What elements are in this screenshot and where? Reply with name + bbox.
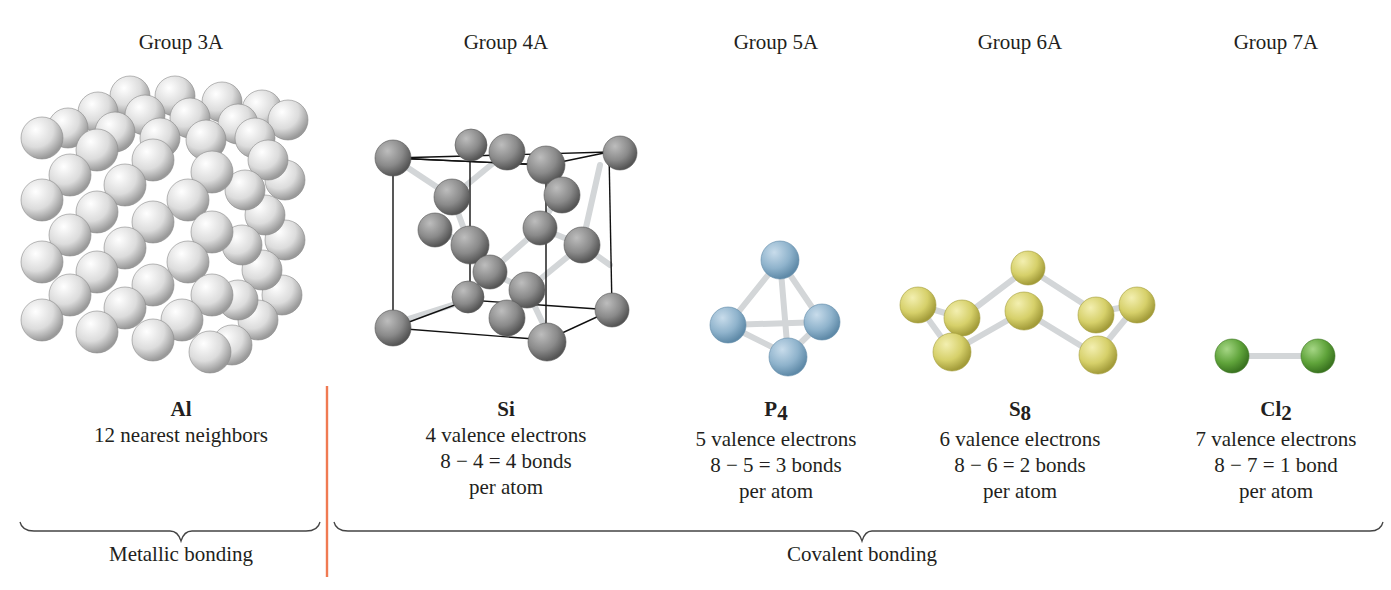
p4-label: P4 5 valence electrons 8 − 5 = 3 bonds p… xyxy=(656,396,896,504)
s8-label: S8 6 valence electrons 8 − 6 = 2 bonds p… xyxy=(900,396,1140,504)
description-line: per atom xyxy=(1156,478,1391,504)
cl2-label: Cl2 7 valence electrons 8 − 7 = 1 bond p… xyxy=(1156,396,1391,504)
metallic-brace xyxy=(20,522,320,541)
silicon-lattice xyxy=(375,129,637,361)
description-line: 7 valence electrons xyxy=(1156,426,1391,452)
formula: Si xyxy=(497,397,515,421)
covalent-bonding-label: Covalent bonding xyxy=(742,542,982,567)
formula-subscript: 8 xyxy=(1021,401,1032,425)
description-line: 8 − 7 = 1 bond xyxy=(1156,452,1391,478)
si-label: Si 4 valence electrons 8 − 4 = 4 bonds p… xyxy=(386,396,626,500)
formula: Cl xyxy=(1260,397,1281,421)
phosphorus-molecule xyxy=(710,241,840,376)
description-line: per atom xyxy=(656,478,896,504)
description-line: 6 valence electrons xyxy=(900,426,1140,452)
formula: S xyxy=(1009,397,1021,421)
formula-subscript: 4 xyxy=(777,401,788,425)
description-line: per atom xyxy=(386,474,626,500)
aluminum-lattice xyxy=(21,76,308,373)
al-label: Al 12 nearest neighbors xyxy=(61,396,301,448)
covalent-brace xyxy=(334,522,1383,541)
description-line: 8 − 4 = 4 bonds xyxy=(386,448,626,474)
description-line: 12 nearest neighbors xyxy=(61,422,301,448)
description-line: per atom xyxy=(900,478,1140,504)
description-line: 4 valence electrons xyxy=(386,422,626,448)
formula: P xyxy=(764,397,777,421)
formula-subscript: 2 xyxy=(1281,401,1292,425)
sulfur-molecule xyxy=(900,251,1155,374)
chlorine-molecule xyxy=(1215,339,1335,373)
metallic-bonding-label: Metallic bonding xyxy=(61,542,301,567)
description-line: 8 − 5 = 3 bonds xyxy=(656,452,896,478)
description-line: 8 − 6 = 2 bonds xyxy=(900,452,1140,478)
formula: Al xyxy=(171,397,192,421)
description-line: 5 valence electrons xyxy=(656,426,896,452)
